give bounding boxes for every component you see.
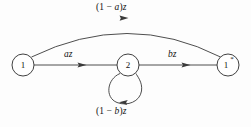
edge-label-bottom: (1 − b)z: [96, 106, 126, 116]
node-1-label: 1: [21, 60, 26, 70]
node-1-star-label: 1: [224, 60, 229, 70]
node-2-label: 2: [126, 60, 131, 70]
diagram-canvas: 1 2 1 * (1 − a)z az bz (1 − b)z: [0, 0, 251, 127]
edge-2-self-loop: [109, 74, 142, 104]
arrowhead-top-arc: [120, 16, 129, 21]
edge-label-right: bz: [168, 49, 177, 59]
edge-1-to-1star-arc: [32, 34, 221, 58]
node-1-star-asterisk: *: [230, 55, 234, 63]
edge-label-top: (1 − a)z: [96, 2, 126, 12]
edge-label-left: az: [64, 49, 73, 59]
